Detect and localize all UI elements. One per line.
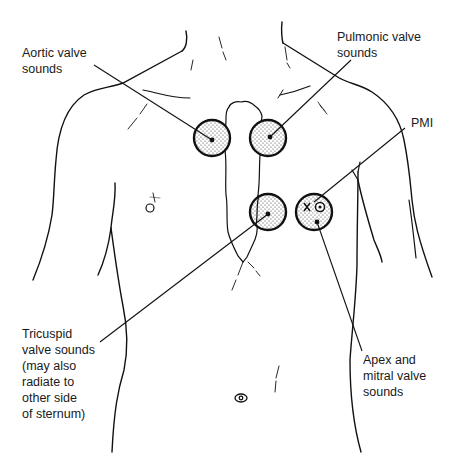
tricuspid-label-line3: (may also [22, 358, 95, 374]
aortic-label-line1: Aortic valve [22, 45, 87, 61]
tricuspid-label-line1: Tricuspid [22, 326, 95, 342]
tricuspid-label-line5: other side [22, 390, 95, 406]
mitral-label-line2: mitral valve [363, 368, 426, 384]
pulmonic-label-line2: sounds [337, 45, 421, 61]
pmi-label: PMI [411, 115, 433, 131]
right-torso-line [358, 180, 382, 262]
navel-icon [235, 394, 247, 402]
right-clavicle [280, 86, 310, 95]
tricuspid-label: Tricuspid valve sounds (may also radiate… [22, 326, 95, 422]
tricuspid-label-line2: valve sounds [22, 342, 95, 358]
left-nipple [146, 204, 154, 212]
right-flank [350, 172, 361, 452]
pulmonic-label: Pulmonic valve sounds [337, 29, 421, 61]
pmi-label-text: PMI [411, 115, 433, 131]
mitral-label-line1: Apex and [363, 352, 426, 368]
left-clavicle [143, 90, 190, 98]
aortic-label: Aortic valve sounds [22, 45, 87, 77]
aortic-label-line2: sounds [22, 61, 87, 77]
neck-right-line [282, 22, 283, 43]
left-torso-line [98, 183, 115, 275]
left-flank [111, 228, 127, 452]
neck-left-line [182, 31, 187, 51]
chest-auscultation-diagram: Aortic valve sounds Pulmonic valve sound… [0, 0, 459, 472]
mitral-label: Apex and mitral valve sounds [363, 352, 426, 400]
tricuspid-label-line6: of sternum) [22, 406, 95, 422]
pulmonic-label-line1: Pulmonic valve [337, 29, 421, 45]
mitral-label-line3: sounds [363, 384, 426, 400]
auscultation-sites [194, 120, 332, 230]
tricuspid-label-line4: radiate to [22, 374, 95, 390]
mitral-site [296, 194, 332, 230]
